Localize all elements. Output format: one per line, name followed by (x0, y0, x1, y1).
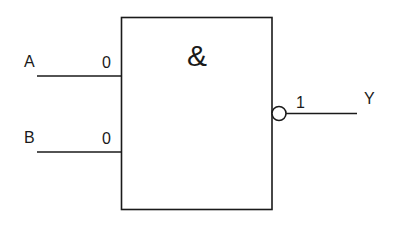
nand-gate-diagram: & A 0 B 0 1 Y (0, 0, 399, 228)
input-a-label: A (24, 53, 35, 70)
input-b-value: 0 (102, 130, 111, 147)
input-b-label: B (24, 129, 35, 146)
negation-bubble-icon (272, 107, 286, 121)
gate-symbol: & (187, 39, 207, 72)
output-y-label: Y (364, 90, 375, 107)
output-y-value: 1 (296, 94, 305, 111)
diagram-svg: & A 0 B 0 1 Y (0, 0, 399, 228)
input-a-value: 0 (102, 54, 111, 71)
